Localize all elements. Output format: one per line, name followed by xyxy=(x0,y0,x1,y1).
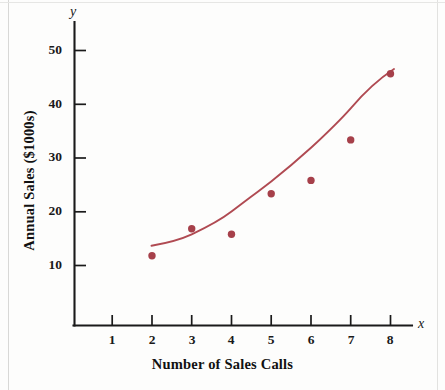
chart-page: 50 40 30 20 10 1 2 3 4 5 6 7 8 y x Numbe… xyxy=(0,0,445,390)
data-points-group xyxy=(148,70,394,259)
x-tick-label-2: 2 xyxy=(140,332,164,348)
x-tick-label-5: 5 xyxy=(259,332,283,348)
fitted-curve xyxy=(152,69,395,246)
y-tick-label-50: 50 xyxy=(32,42,62,58)
data-point-2 xyxy=(188,225,195,232)
x-tick-label-7: 7 xyxy=(339,332,363,348)
data-point-1 xyxy=(148,252,155,259)
x-axis-title: Number of Sales Calls xyxy=(0,356,445,373)
x-tick-label-8: 8 xyxy=(378,332,402,348)
x-tick-label-1: 1 xyxy=(100,332,124,348)
x-axis-ticks xyxy=(112,315,390,326)
y-axis-title: Annual Sales ($1000s) xyxy=(21,76,38,286)
data-point-6 xyxy=(347,136,354,143)
data-point-5 xyxy=(307,177,314,184)
x-axis-letter: x xyxy=(418,316,424,332)
data-point-7 xyxy=(387,70,394,77)
x-tick-label-6: 6 xyxy=(299,332,323,348)
y-axis-ticks xyxy=(75,51,87,266)
y-axis-letter: y xyxy=(70,4,76,20)
data-point-4 xyxy=(268,190,275,197)
x-tick-label-3: 3 xyxy=(180,332,204,348)
data-point-3 xyxy=(228,231,235,238)
x-tick-label-4: 4 xyxy=(219,332,243,348)
